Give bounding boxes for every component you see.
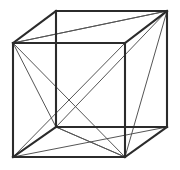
cube-wireframe-svg (0, 0, 180, 170)
cube-figure (0, 0, 180, 170)
